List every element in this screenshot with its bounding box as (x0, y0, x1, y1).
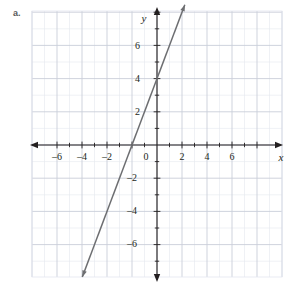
coordinate-plane-plot: –6–4–2246642–2–4–60xy (0, 0, 297, 293)
axes (30, 7, 283, 282)
x-tick-label: 2 (180, 151, 185, 162)
y-tick-label: 6 (135, 40, 140, 51)
x-axis-name: x (278, 151, 284, 163)
figure-container: a. –6–4–2246642–2–4–60xy (0, 0, 297, 293)
y-tick-label: –4 (126, 205, 137, 216)
origin-label: 0 (144, 151, 149, 162)
x-tick-label: –4 (76, 151, 87, 162)
y-tick-label: 4 (135, 73, 140, 84)
part-label: a. (13, 8, 21, 18)
y-axis-name: y (141, 12, 147, 24)
x-tick-label: 6 (230, 151, 235, 162)
y-tick-label: –2 (126, 172, 137, 183)
y-tick-label: –6 (126, 238, 137, 249)
axis-labels: –6–4–2246642–2–4–60xy (51, 12, 284, 249)
y-tick-label: 2 (135, 106, 140, 117)
x-tick-label: 4 (205, 151, 210, 162)
x-tick-label: –2 (101, 151, 112, 162)
x-tick-label: –6 (51, 151, 62, 162)
